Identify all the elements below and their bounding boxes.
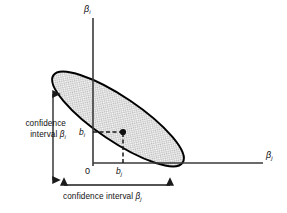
vertical-interval-line1: confidence — [25, 119, 66, 128]
confidence-ellipse-figure: βi βj 0 bi bj confidenceinterval βi conf… — [0, 0, 287, 213]
x-point-estimate-label: bj — [116, 166, 122, 177]
vertical-interval-label: confidenceinterval βi — [4, 119, 66, 140]
horizontal-interval-text: confidence interval — [63, 192, 133, 201]
y-axis-label-subscript: i — [89, 9, 90, 15]
y-axis-label: βi — [84, 4, 91, 15]
vertical-interval-subscript: i — [65, 134, 66, 140]
point-estimate-marker — [120, 129, 126, 135]
vertical-interval-line2: interval — [30, 130, 57, 139]
vertical-interval-symbol: β — [60, 130, 65, 139]
x-axis-label: βj — [266, 150, 273, 161]
x-point-estimate-subscript: j — [121, 171, 122, 177]
x-axis-label-subscript: j — [271, 155, 272, 161]
horizontal-interval-label: confidence interval βj — [63, 192, 142, 202]
y-point-estimate-label: bi — [79, 127, 85, 138]
y-point-estimate-subscript: i — [84, 132, 85, 138]
origin-label: 0 — [85, 166, 90, 176]
figure-canvas — [0, 0, 287, 213]
horizontal-interval-subscript: j — [140, 196, 141, 202]
